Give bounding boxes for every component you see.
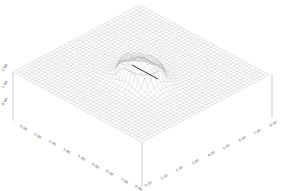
mesh-line [134, 8, 263, 78]
mesh-line [130, 10, 259, 80]
wireframe-mesh [13, 5, 269, 142]
mesh-line [126, 66, 253, 133]
mesh-line [142, 75, 269, 142]
mesh-line [139, 73, 266, 140]
mesh-line [137, 7, 266, 77]
mesh-line [127, 12, 256, 82]
plot-box [13, 72, 272, 187]
mesh-line [129, 68, 256, 135]
surface-plot [0, 0, 283, 191]
mesh-line [124, 13, 253, 83]
mesh-line [136, 72, 263, 139]
mesh-line [67, 44, 196, 114]
mesh-line [132, 70, 259, 137]
